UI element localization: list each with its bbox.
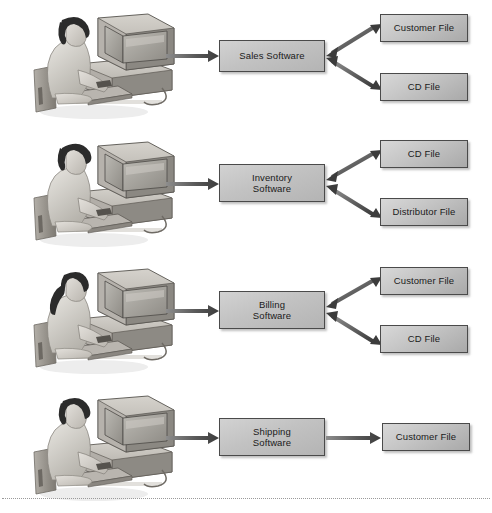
software-box-sales[interactable]: Sales Software <box>219 40 325 72</box>
file-box-distributor[interactable]: Distributor File <box>380 198 468 226</box>
arrow-double-headed-icon <box>326 22 382 58</box>
person-at-computer-icon <box>22 390 182 502</box>
software-box-shipping[interactable]: Shipping Software <box>219 418 325 456</box>
arrow-right-icon <box>326 430 382 446</box>
software-box-billing[interactable]: Billing Software <box>219 291 325 329</box>
file-box-cd[interactable]: CD File <box>380 325 468 353</box>
file-box-label: CD File <box>408 333 440 345</box>
arrow-double-headed-icon <box>326 311 382 347</box>
file-box-label: Customer File <box>396 431 456 443</box>
software-box-label: Billing Software <box>253 299 291 322</box>
flow-row-sales: Sales Software Customer File CD File <box>0 0 492 125</box>
file-box-cd[interactable]: CD File <box>380 73 468 101</box>
file-box-customer[interactable]: Customer File <box>382 423 470 451</box>
flow-row-shipping: Shipping Software Customer File <box>0 382 492 502</box>
arrow-double-headed-icon <box>326 148 382 182</box>
footer-divider <box>2 498 490 500</box>
file-box-label: CD File <box>408 148 440 160</box>
arrow-double-headed-icon <box>326 184 382 220</box>
file-box-cd[interactable]: CD File <box>380 140 468 168</box>
flow-row-billing: Billing Software Customer File CD File <box>0 255 492 380</box>
file-box-customer[interactable]: Customer File <box>380 267 468 295</box>
file-box-customer[interactable]: Customer File <box>380 14 468 42</box>
software-box-inventory[interactable]: Inventory Software <box>219 164 325 202</box>
file-box-label: Distributor File <box>393 206 456 218</box>
software-box-label: Shipping Software <box>253 426 291 449</box>
file-box-label: Customer File <box>394 22 454 34</box>
person-at-computer-icon <box>22 263 182 375</box>
flow-row-inventory: Inventory Software CD File Distributor F… <box>0 128 492 253</box>
arrow-double-headed-icon <box>326 56 382 92</box>
software-box-label: Inventory Software <box>252 172 292 195</box>
software-box-label: Sales Software <box>239 50 304 62</box>
arrow-double-headed-icon <box>326 275 382 309</box>
file-box-label: Customer File <box>394 275 454 287</box>
file-box-label: CD File <box>408 81 440 93</box>
person-at-computer-icon <box>22 8 182 120</box>
diagram-canvas: Sales Software Customer File CD File <box>0 0 492 513</box>
person-at-computer-icon <box>22 136 182 248</box>
